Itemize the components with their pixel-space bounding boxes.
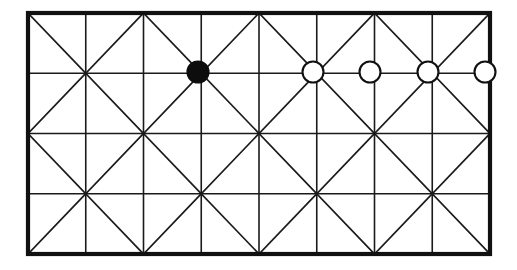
triangulated-grid-diagram (0, 0, 517, 270)
node-filled-1 (187, 61, 209, 83)
node-open-2 (360, 62, 381, 83)
node-open-3 (418, 62, 439, 83)
node-open-4 (475, 62, 496, 83)
node-open-1 (303, 62, 324, 83)
figure-root (0, 0, 517, 270)
